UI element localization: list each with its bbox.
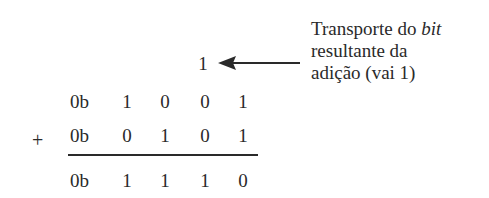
carry-digit: 1: [191, 53, 215, 75]
operand-a-bit: 0: [193, 91, 217, 113]
arrow-left-icon: [218, 55, 302, 71]
result-bit: 0: [231, 170, 255, 192]
annotation-line-2: resultante da: [311, 40, 441, 62]
operand-a-bit: 0: [153, 91, 177, 113]
operand-b-bit: 0: [115, 125, 139, 147]
annotation-line-1-text: Transporte do: [311, 18, 421, 39]
operand-b-bit: 1: [231, 125, 255, 147]
annotation-line-3: adição (vai 1): [311, 62, 441, 84]
operand-b-prefix: 0b: [70, 125, 89, 147]
carry-annotation: Transporte do bit resultante da adição (…: [311, 18, 441, 84]
annotation-italic-bit: bit: [421, 18, 441, 39]
result-bit: 1: [153, 170, 177, 192]
operand-a-prefix: 0b: [70, 91, 89, 113]
operand-a-bit: 1: [115, 91, 139, 113]
result-bit: 1: [115, 170, 139, 192]
operand-a-bit: 1: [231, 91, 255, 113]
operand-b-bit: 0: [193, 125, 217, 147]
annotation-line-1: Transporte do bit: [311, 18, 441, 40]
plus-operator: +: [32, 129, 43, 151]
sum-rule: [68, 154, 258, 156]
result-bit: 1: [193, 170, 217, 192]
result-prefix: 0b: [70, 170, 89, 192]
operand-b-bit: 1: [153, 125, 177, 147]
